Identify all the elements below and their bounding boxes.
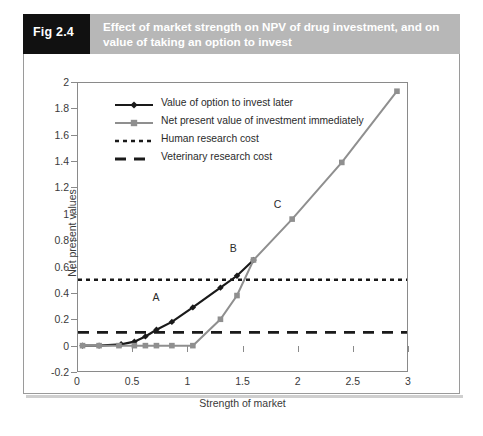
y-tick-label: 1.2 bbox=[29, 181, 69, 193]
y-tick-label: -0.2 bbox=[29, 366, 69, 378]
y-tick-mark bbox=[71, 135, 77, 136]
legend-swatch bbox=[113, 151, 155, 166]
point-label-b: B bbox=[230, 242, 237, 254]
legend-swatch bbox=[113, 97, 155, 112]
legend-label: Value of option to invest later bbox=[161, 97, 293, 108]
y-tick-mark bbox=[71, 372, 77, 373]
x-tick-mark bbox=[298, 346, 299, 352]
y-tick-label: 0 bbox=[29, 340, 69, 352]
x-tick-label: 2.5 bbox=[346, 375, 361, 387]
legend-swatch bbox=[113, 133, 155, 148]
y-tick-label: 0.2 bbox=[29, 313, 69, 325]
x-axis-title: Strength of market bbox=[77, 397, 408, 409]
chart-area: -0.200.20.40.60.811.21.41.61.82 00.511.5… bbox=[0, 0, 483, 436]
y-tick-label: 0.6 bbox=[29, 261, 69, 273]
x-tick-mark bbox=[408, 346, 409, 352]
y-tick-label: 1.8 bbox=[29, 102, 69, 114]
x-tick-mark bbox=[353, 346, 354, 352]
x-tick-label: 0.5 bbox=[125, 375, 140, 387]
y-tick-label: 1.4 bbox=[29, 155, 69, 167]
data-point-marker bbox=[131, 120, 137, 126]
x-tick-label: 2 bbox=[295, 375, 301, 387]
y-tick-label: 0.8 bbox=[29, 234, 69, 246]
legend-label: Human research cost bbox=[161, 133, 259, 144]
y-tick-label: 1 bbox=[29, 208, 69, 220]
y-tick-mark bbox=[71, 108, 77, 109]
x-tick-label: 3 bbox=[405, 375, 411, 387]
y-tick-label: 2 bbox=[29, 76, 69, 88]
x-tick-mark bbox=[243, 346, 244, 352]
x-tick-mark bbox=[187, 346, 188, 352]
data-point-marker bbox=[130, 101, 137, 108]
x-tick-label: 1 bbox=[184, 375, 190, 387]
y-tick-mark bbox=[71, 82, 77, 83]
legend-swatch bbox=[113, 115, 155, 130]
y-tick-label: 0.4 bbox=[29, 287, 69, 299]
x-tick-label: 1.5 bbox=[235, 375, 250, 387]
y-tick-mark bbox=[71, 319, 77, 320]
y-tick-label: 1.6 bbox=[29, 129, 69, 141]
legend-label: Veterinary research cost bbox=[161, 151, 272, 162]
point-label-c: C bbox=[274, 198, 282, 210]
point-label-a: A bbox=[152, 291, 159, 303]
x-tick-label: 0 bbox=[74, 375, 80, 387]
y-axis-title: Net present values bbox=[66, 153, 78, 313]
x-tick-mark bbox=[77, 346, 78, 352]
x-tick-mark bbox=[132, 346, 133, 352]
legend-label: Net present value of investment immediat… bbox=[161, 115, 364, 126]
